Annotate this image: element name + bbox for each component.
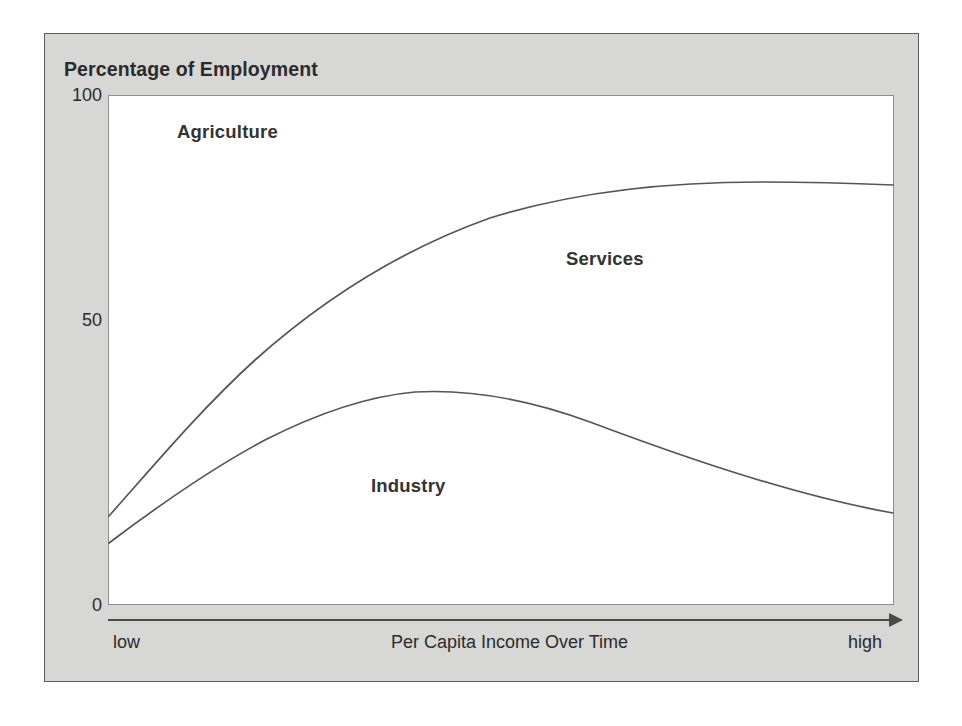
chart-title: Percentage of Employment (64, 58, 318, 81)
series-label-services: Services (566, 248, 644, 270)
series-label-industry: Industry (371, 475, 446, 497)
y-axis-tick-100: 100 (42, 85, 102, 106)
x-axis-caption-low: low (113, 632, 140, 653)
y-axis-tick-50: 50 (42, 310, 102, 331)
chart-figure: Percentage of Employment 100 50 0 Agricu… (0, 0, 962, 726)
x-axis-caption-high: high (848, 632, 882, 653)
plot-area (108, 95, 894, 605)
y-axis-tick-0: 0 (42, 595, 102, 616)
series-label-agriculture: Agriculture (177, 121, 278, 143)
x-axis-label: Per Capita Income Over Time (391, 632, 628, 653)
